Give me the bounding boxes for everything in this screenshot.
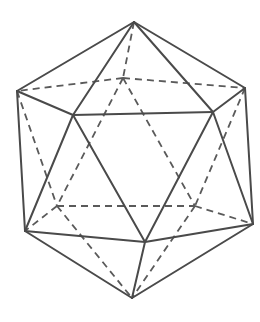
- hidden-edges: [17, 22, 253, 298]
- visible-edge-FR-BF: [145, 112, 213, 242]
- visible-edge-LR-B: [132, 224, 253, 298]
- hidden-edge-HLR-B: [132, 206, 195, 298]
- visible-edges: [17, 22, 253, 298]
- visible-edge-L-LL: [17, 91, 25, 231]
- hidden-edge-HLL-B: [57, 206, 132, 298]
- visible-edge-FL-LL: [25, 115, 73, 231]
- visible-edge-L-FL: [17, 91, 73, 115]
- visible-edge-T-R: [134, 22, 245, 88]
- visible-edge-FL-BF: [73, 115, 145, 242]
- visible-edge-LL-BF: [25, 231, 145, 242]
- hidden-edge-HLR-LR: [195, 206, 253, 224]
- hidden-edge-BU-HLR: [123, 78, 195, 206]
- visible-edge-T-FL: [73, 22, 134, 115]
- hidden-edge-BU-L: [17, 78, 123, 91]
- visible-edge-T-FR: [134, 22, 213, 112]
- visible-edge-T-L: [17, 22, 134, 91]
- visible-edge-LL-B: [25, 231, 132, 298]
- icosahedron-diagram: [0, 0, 260, 322]
